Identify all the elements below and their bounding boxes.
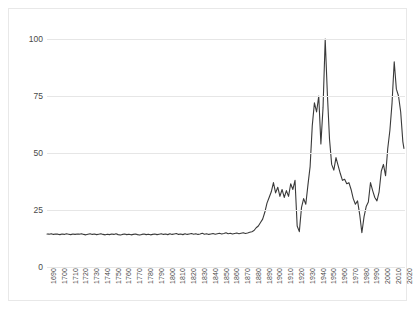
x-tick-1760: 1760 (125, 268, 132, 284)
x-tick-1700: 1700 (61, 268, 68, 284)
series-index-line (47, 39, 404, 235)
x-tick-1750: 1750 (115, 268, 122, 284)
x-tick-1870: 1870 (244, 268, 251, 284)
x-tick-1740: 1740 (104, 268, 111, 284)
x-tick-1820: 1820 (190, 268, 197, 284)
x-tick-1840: 1840 (212, 268, 219, 284)
x-tick-1800: 1800 (169, 268, 176, 284)
x-tick-1910: 1910 (287, 268, 294, 284)
x-tick-1890: 1890 (266, 268, 273, 284)
plot-area: 0255075100 (47, 39, 405, 267)
y-tick-25: 25 (34, 206, 43, 215)
x-tick-1980: 1980 (363, 268, 370, 284)
y-tick-75: 75 (34, 92, 43, 101)
gridline-100 (47, 39, 405, 40)
x-tick-1940: 1940 (320, 268, 327, 284)
x-tick-1990: 1990 (373, 268, 380, 284)
x-tick-1830: 1830 (201, 268, 208, 284)
x-tick-1730: 1730 (93, 268, 100, 284)
x-tick-1690: 1690 (50, 268, 57, 284)
x-tick-1960: 1960 (341, 268, 348, 284)
x-tick-1970: 1970 (352, 268, 359, 284)
gridline-25 (47, 210, 405, 211)
y-tick-50: 50 (34, 149, 43, 158)
gridline-75 (47, 96, 405, 97)
x-tick-1770: 1770 (136, 268, 143, 284)
x-tick-1930: 1930 (309, 268, 316, 284)
x-tick-1880: 1880 (255, 268, 262, 284)
x-tick-1850: 1850 (223, 268, 230, 284)
x-tick-2020: 2020 (406, 268, 413, 284)
x-tick-1780: 1780 (147, 268, 154, 284)
gridline-50 (47, 153, 405, 154)
x-tick-1790: 1790 (158, 268, 165, 284)
x-tick-1950: 1950 (330, 268, 337, 284)
chart-card: 0255075100 16901700171017201730174017501… (8, 8, 407, 301)
y-tick-0: 0 (38, 263, 43, 272)
x-tick-2010: 2010 (395, 268, 402, 284)
x-tick-1720: 1720 (82, 268, 89, 284)
x-tick-1920: 1920 (298, 268, 305, 284)
x-tick-1900: 1900 (276, 268, 283, 284)
x-tick-1710: 1710 (72, 268, 79, 284)
y-tick-100: 100 (29, 35, 43, 44)
x-tick-1810: 1810 (179, 268, 186, 284)
x-tick-2000: 2000 (384, 268, 391, 284)
x-axis-labels: 1690170017101720173017401750176017701780… (47, 268, 405, 309)
x-tick-1860: 1860 (233, 268, 240, 284)
